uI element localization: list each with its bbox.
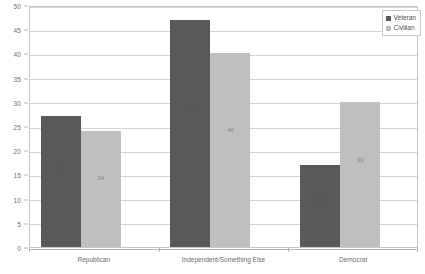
legend: VeteranCivilian [382,10,421,36]
y-tick-mark [24,248,28,249]
bar-data-label: 30 [340,157,380,163]
y-axis: 05101520253035404550 [0,6,28,248]
y-tick-mark [24,54,28,55]
y-tick-mark [24,102,28,103]
bar-civilian-1[interactable]: 40 [210,53,250,247]
y-tick-label: 50 [14,3,21,10]
y-tick-label: 30 [14,99,21,106]
y-tick-mark [24,30,28,31]
legend-swatch-icon [386,16,391,21]
x-axis-label: Republican [78,256,111,263]
bar-veteran-0[interactable]: 27 [41,116,81,247]
y-tick-label: 5 [17,220,21,227]
bar-data-label: 47 [170,106,210,112]
y-tick-mark [24,175,28,176]
plot-area: 272447401730 [29,6,418,248]
bar-data-label: 24 [81,175,121,181]
x-tick-mark [417,248,418,252]
bars-layer: 272447401730 [30,7,417,247]
bar-chart: 05101520253035404550 272447401730 Vetera… [0,0,425,274]
bar-civilian-0[interactable]: 24 [81,131,121,247]
x-axis: RepublicanIndependent/Something ElseDemo… [29,248,418,274]
y-tick-label: 25 [14,124,21,131]
y-tick-mark [24,78,28,79]
x-tick-mark [288,248,289,252]
y-tick-label: 15 [14,172,21,179]
x-tick-mark [159,248,160,252]
y-tick-mark [24,199,28,200]
y-tick-label: 10 [14,196,21,203]
legend-item-civilian[interactable]: Civilian [386,23,416,33]
x-axis-label: Democrat [339,256,367,263]
y-tick-label: 0 [17,245,21,252]
bar-veteran-1[interactable]: 47 [170,20,210,247]
y-tick-mark [24,6,28,7]
bar-data-label: 27 [41,166,81,172]
y-tick-label: 35 [14,75,21,82]
bar-veteran-2[interactable]: 17 [300,165,340,247]
y-tick-label: 20 [14,148,21,155]
legend-item-veteran[interactable]: Veteran [386,13,416,23]
x-tick-mark [29,248,30,252]
y-tick-mark [24,151,28,152]
y-tick-label: 40 [14,51,21,58]
x-axis-label: Independent/Something Else [182,256,265,263]
bar-data-label: 40 [210,127,250,133]
bar-civilian-2[interactable]: 30 [340,102,380,247]
legend-label: Civilian [394,25,415,32]
y-tick-label: 45 [14,27,21,34]
legend-label: Veteran [394,15,416,22]
bar-group: 1730 [289,7,419,247]
bar-group: 4740 [160,7,290,247]
bar-data-label: 17 [300,196,340,202]
legend-swatch-icon [386,26,391,31]
y-tick-mark [24,223,28,224]
y-tick-mark [24,127,28,128]
bar-group: 2724 [30,7,160,247]
